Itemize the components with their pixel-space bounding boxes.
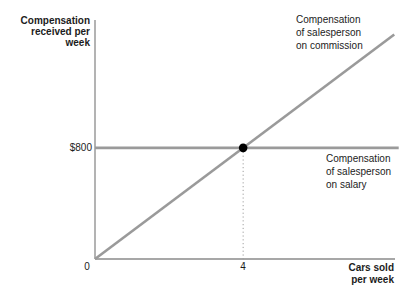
x-axis-title: Cars sold per week bbox=[339, 262, 394, 286]
x-tick-label-0: 0 bbox=[75, 261, 99, 273]
compensation-chart: Compensation received per week $800 0 4 … bbox=[0, 0, 415, 296]
salary-line-annotation: Compensation of salesperson on salary bbox=[326, 152, 406, 191]
commission-line-annotation: Compensation of salesperson on commissio… bbox=[296, 13, 376, 52]
y-tick-label-800: $800 bbox=[40, 142, 92, 154]
y-axis-title: Compensation received per week bbox=[18, 15, 90, 48]
intersection-dot bbox=[239, 144, 248, 153]
x-tick-label-4: 4 bbox=[231, 261, 255, 273]
